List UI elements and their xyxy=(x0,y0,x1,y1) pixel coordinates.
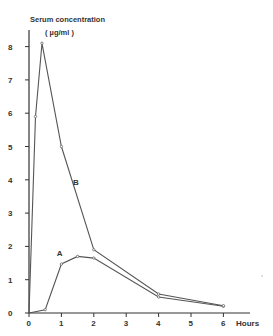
y-axis-unit: ( µg/ml ) xyxy=(45,28,74,37)
data-point xyxy=(222,304,224,306)
x-tick-label: 2 xyxy=(91,319,96,328)
y-tick-label: 3 xyxy=(8,209,13,218)
data-point xyxy=(60,263,62,265)
y-tick-label: 4 xyxy=(8,176,13,185)
y-tick-label: 5 xyxy=(8,143,13,152)
y-tick-label: 0 xyxy=(8,309,13,318)
y-tick-label: 7 xyxy=(8,76,13,85)
series-label-B: B xyxy=(73,178,79,187)
data-point xyxy=(93,249,95,251)
data-point xyxy=(41,42,43,44)
data-point xyxy=(44,308,46,310)
y-tick-label: 1 xyxy=(8,276,13,285)
y-tick-label: 8 xyxy=(8,43,13,52)
series-A-line xyxy=(29,256,223,313)
x-axis-title: Hours xyxy=(236,319,260,328)
series-lines: AB xyxy=(29,42,225,313)
data-point xyxy=(34,115,36,117)
series-label-A: A xyxy=(57,249,63,258)
y-axis-title: Serum concentration xyxy=(30,15,105,24)
x-tick-label: 3 xyxy=(124,319,129,328)
data-point xyxy=(76,255,78,257)
x-tick-label: 1 xyxy=(59,319,64,328)
axes: 0123456780123456 xyxy=(8,30,250,328)
scan-speck xyxy=(261,275,263,277)
data-point xyxy=(60,145,62,147)
y-tick-label: 6 xyxy=(8,109,13,118)
data-point xyxy=(157,296,159,298)
data-point xyxy=(93,257,95,259)
data-point xyxy=(157,293,159,295)
y-tick-label: 2 xyxy=(8,242,13,251)
x-tick-label: 4 xyxy=(156,319,161,328)
x-tick-label: 6 xyxy=(221,319,226,328)
x-tick-label: 0 xyxy=(27,319,32,328)
pharmacokinetic-line-chart: 0123456780123456 AB Serum concentration … xyxy=(0,0,273,336)
x-tick-label: 5 xyxy=(189,319,194,328)
